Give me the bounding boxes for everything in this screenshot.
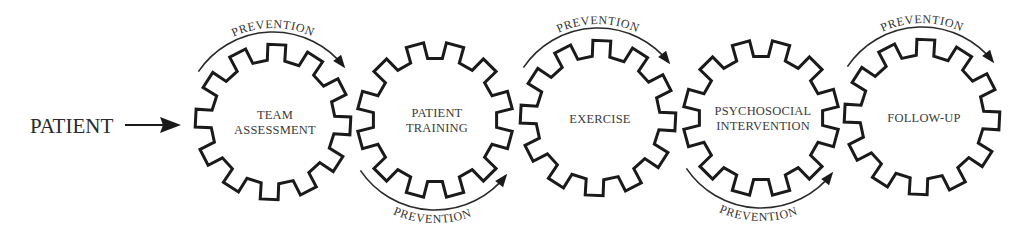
entry-arrowhead-icon — [160, 117, 181, 133]
gear-exercise: EXERCISE PREVENTION — [520, 13, 676, 196]
gear-label-line-2: INTERVENTION — [716, 119, 810, 133]
gear-follow-up: FOLLOW-UP PREVENTION — [844, 12, 1000, 195]
prevention-label: PREVENTION — [392, 204, 474, 226]
gear-label-line-1: TEAM — [257, 108, 293, 122]
gear-patient-training: PATIENT TRAINING PREVENTION — [358, 43, 512, 226]
gear-label-line-2: ASSESSMENT — [234, 123, 316, 137]
prevention-label: PREVENTION — [878, 12, 966, 35]
prevention-label: PREVENTION — [229, 17, 317, 40]
gear-label-line-1: PATIENT — [412, 106, 463, 120]
patient-label: PATIENT — [30, 114, 113, 138]
gear-psychosocial-intervention: PSYCHOSOCIAL INTERVENTION PREVENTION — [684, 41, 838, 224]
gear-label-line-2: TRAINING — [406, 121, 468, 135]
gear-label-line-1: EXERCISE — [569, 112, 630, 126]
gear-label-line-1: FOLLOW-UP — [887, 111, 960, 125]
gear-outline-icon — [684, 41, 838, 195]
prevention-label: PREVENTION — [554, 13, 642, 36]
gear-outline-icon — [358, 43, 512, 197]
prevention-label: PREVENTION — [718, 202, 800, 224]
gear-label-line-1: PSYCHOSOCIAL — [715, 104, 812, 118]
treatment-gears-diagram: PATIENT TEAM ASSESSMENT PREVENTION PATIE… — [0, 0, 1032, 236]
gear-outline-icon — [195, 44, 351, 200]
patient-entry: PATIENT — [30, 114, 181, 138]
gear-team-assessment: TEAM ASSESSMENT PREVENTION — [195, 17, 351, 200]
